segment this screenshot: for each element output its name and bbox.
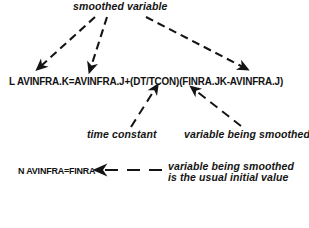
arrow-overlay <box>0 0 309 228</box>
arrow-title-to-level-variable <box>41 17 95 66</box>
variable-being-smoothed-label: variable being smoothed <box>184 129 309 141</box>
initial-value-equation-text: N AVINFRA=FINRA <box>18 166 95 177</box>
arrow-smoothed-variable-to-finra <box>195 90 241 126</box>
initial-value-note-line2: is the usual initial value <box>168 172 288 184</box>
arrow-title-to-previous-value <box>91 17 107 67</box>
smoothing-equation-diagram: smoothed variable L AVINFRA.K=AVINFRA.J+… <box>0 0 309 228</box>
arrow-time-constant-to-tcon <box>131 89 155 127</box>
time-constant-label: time constant <box>87 129 157 141</box>
level-equation-text: L AVINFRA.K=AVINFRA.J+(DT/TCON)(FINRA.JK… <box>9 76 283 88</box>
smoothed-variable-label: smoothed variable <box>73 1 167 13</box>
arrow-title-to-subtracted-value <box>146 17 243 67</box>
